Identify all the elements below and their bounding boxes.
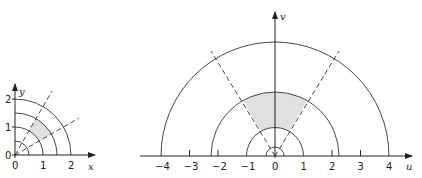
right-u-tick-label-neg3: −3: [184, 161, 199, 172]
right-v-axis-label: v: [280, 11, 286, 22]
left-y-axis-label: y: [18, 86, 25, 97]
left-x-tick-label-2: 2: [68, 160, 74, 171]
left-x-tick-label-1: 1: [40, 160, 46, 171]
left-dashed-ray-60: [15, 91, 52, 155]
left-circle-r0.5: [15, 141, 29, 155]
right-u-tick-label-2: 2: [329, 161, 335, 172]
right-u-tick-label-0: 0: [272, 161, 278, 172]
left-dashed-ray-30: [15, 118, 79, 155]
left-x-tick-label-0: 0: [12, 160, 18, 171]
right-u-tick-label-3: 3: [358, 161, 364, 172]
left-y-tick-label-2: 2: [5, 94, 11, 105]
right-plot: v u −4 −3 −2 −1 0 1 2 3 4: [140, 11, 412, 172]
left-y-tick-label-1: 1: [5, 122, 11, 133]
left-shaded-region: [29, 119, 51, 141]
right-u-tick-label-neg2: −2: [212, 161, 227, 172]
right-u-tick-label-4: 4: [386, 161, 392, 172]
left-x-axis-label: x: [88, 161, 94, 172]
left-plot: y x 2 1 0 0 1 2: [5, 84, 95, 172]
diagram-canvas: y x 2 1 0 0 1 2 v u −4 −3 −2 −1 0 1: [0, 0, 422, 178]
left-y-tick-label-0: 0: [5, 150, 11, 161]
right-u-tick-label-neg4: −4: [155, 161, 170, 172]
right-u-tick-label-neg1: −1: [241, 161, 256, 172]
right-u-axis-label: u: [406, 161, 412, 172]
right-u-tick-label-1: 1: [301, 161, 307, 172]
